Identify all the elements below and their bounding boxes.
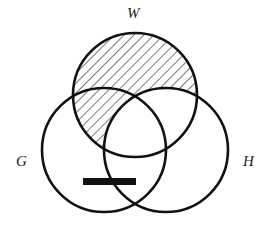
venn-svg [0,0,271,226]
bar-mark [83,178,136,185]
label-w: W [127,6,140,21]
label-h: H [243,154,254,169]
venn-diagram: W G H [0,0,271,226]
label-g: G [16,154,27,169]
